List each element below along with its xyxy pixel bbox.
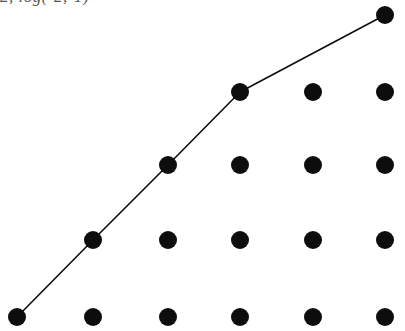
dot-marker [376, 83, 394, 101]
dot-marker [8, 308, 26, 326]
lattice-path-polyline [17, 15, 385, 317]
dot-marker [231, 156, 249, 174]
dot-markers-group [8, 6, 394, 326]
dot-marker [231, 83, 249, 101]
dot-marker [159, 308, 177, 326]
dot-marker [304, 156, 322, 174]
dot-marker [159, 156, 177, 174]
dot-marker [84, 231, 102, 249]
dot-marker [376, 231, 394, 249]
dot-marker [84, 308, 102, 326]
dot-marker [304, 231, 322, 249]
dot-marker [159, 231, 177, 249]
path-polyline-group [17, 15, 385, 317]
dot-marker [231, 231, 249, 249]
dot-marker [231, 308, 249, 326]
scatter-plot [0, 0, 405, 331]
dot-marker [376, 308, 394, 326]
dot-marker [304, 83, 322, 101]
dot-marker [376, 156, 394, 174]
figure-canvas: 2, log(-2,-1) [0, 0, 405, 331]
dot-marker [304, 308, 322, 326]
dot-marker [376, 6, 394, 24]
